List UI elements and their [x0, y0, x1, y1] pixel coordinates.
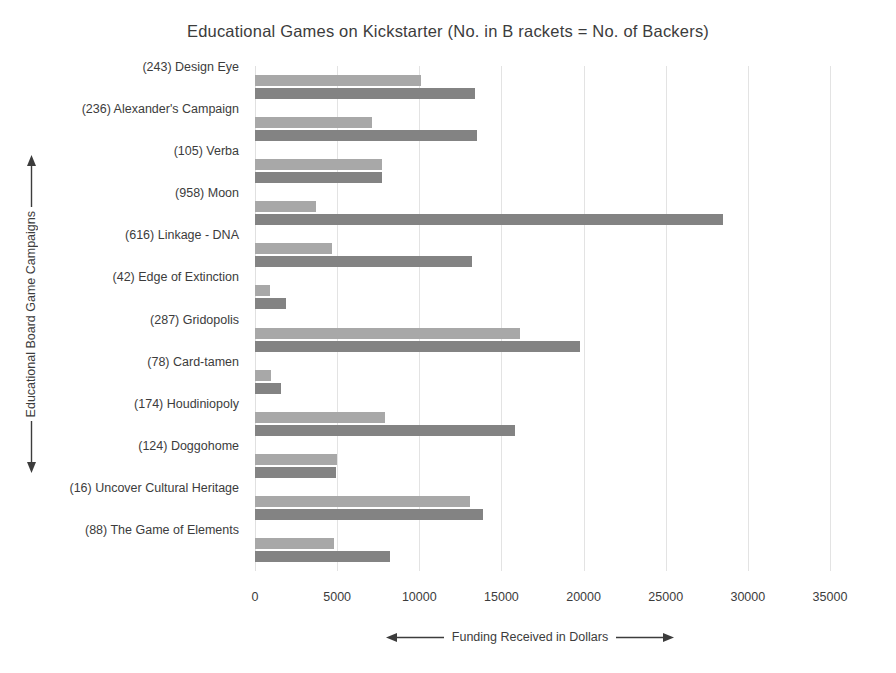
- bar-1-8: [255, 425, 515, 436]
- category-label: (42) Edge of Extinction: [113, 270, 239, 284]
- bar-0-9: [255, 454, 337, 465]
- bar-1-5: [255, 298, 286, 309]
- bar-0-4: [255, 243, 332, 254]
- bar-0-3: [255, 201, 316, 212]
- x-axis-title-label: Funding Received in Dollars: [452, 630, 608, 644]
- bar-0-7: [255, 370, 271, 381]
- bar-1-6: [255, 341, 580, 352]
- chart-title: Educational Games on Kickstarter (No. in…: [0, 22, 896, 41]
- y-axis-category-labels: (243) Design Eye(236) Alexander's Campai…: [0, 66, 247, 571]
- bar-1-3: [255, 214, 723, 225]
- bar-1-11: [255, 551, 390, 562]
- x-tick-label-30000: 30000: [730, 590, 765, 604]
- arrow-left-icon: [386, 632, 444, 643]
- x-axis-tick-labels: 05000100001500020000250003000035000: [255, 590, 875, 610]
- chart-container: Educational Games on Kickstarter (No. in…: [0, 0, 896, 673]
- bar-1-7: [255, 383, 281, 394]
- bar-0-11: [255, 538, 334, 549]
- category-label: (124) Doggohome: [138, 439, 239, 453]
- category-label: (88) The Game of Elements: [85, 523, 239, 537]
- bar-1-1: [255, 130, 477, 141]
- x-tick-label-25000: 25000: [648, 590, 683, 604]
- x-tick-label-10000: 10000: [402, 590, 437, 604]
- category-label: (287) Gridopolis: [150, 313, 239, 327]
- bar-0-5: [255, 285, 270, 296]
- bar-0-1: [255, 117, 372, 128]
- plot-area: [255, 66, 830, 571]
- bar-1-2: [255, 172, 382, 183]
- x-axis-title: Funding Received in Dollars: [320, 630, 740, 644]
- bar-0-0: [255, 75, 421, 86]
- x-tick-label-20000: 20000: [566, 590, 601, 604]
- category-label: (105) Verba: [174, 144, 239, 158]
- category-label: (174) Houdiniopoly: [134, 397, 239, 411]
- x-tick-label-35000: 35000: [813, 590, 848, 604]
- category-label: (616) Linkage - DNA: [125, 228, 239, 242]
- x-tick-label-5000: 5000: [323, 590, 351, 604]
- bar-0-6: [255, 328, 520, 339]
- bar-1-0: [255, 88, 475, 99]
- category-label: (958) Moon: [175, 186, 239, 200]
- bar-1-10: [255, 509, 483, 520]
- bar-0-2: [255, 159, 382, 170]
- arrow-right-icon: [616, 632, 674, 643]
- bar-0-8: [255, 412, 385, 423]
- bars-layer: [255, 66, 830, 571]
- category-label: (16) Uncover Cultural Heritage: [69, 481, 239, 495]
- category-label: (78) Card-tamen: [147, 355, 239, 369]
- x-tick-label-0: 0: [252, 590, 259, 604]
- bar-0-10: [255, 496, 470, 507]
- bar-1-4: [255, 256, 472, 267]
- x-tick-label-15000: 15000: [484, 590, 519, 604]
- category-label: (236) Alexander's Campaign: [82, 102, 239, 116]
- gridline-35000: [830, 66, 831, 571]
- category-label: (243) Design Eye: [142, 60, 239, 74]
- bar-1-9: [255, 467, 336, 478]
